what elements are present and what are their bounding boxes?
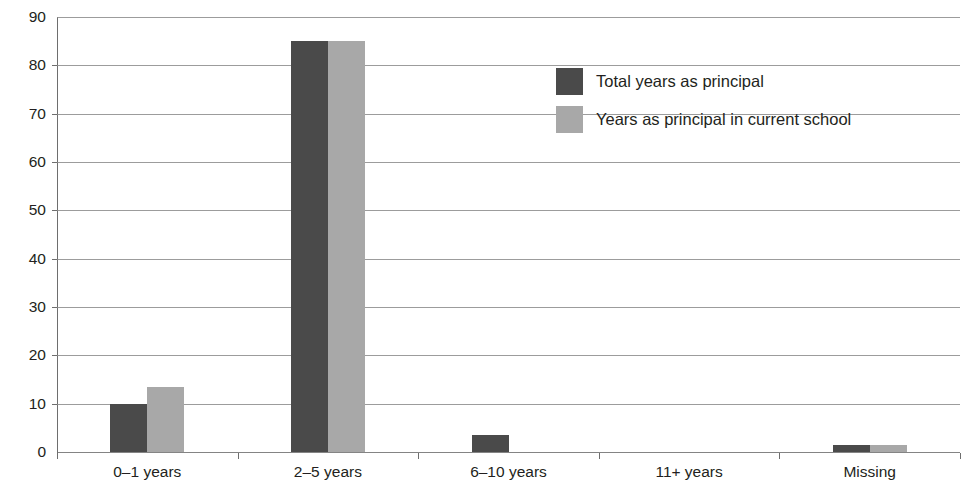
bar <box>833 445 870 452</box>
y-axis-tick-label: 10 <box>0 396 46 412</box>
bar <box>870 445 907 452</box>
x-axis-category-label: 11+ years <box>599 464 780 480</box>
legend-label: Total years as principal <box>596 73 764 90</box>
y-axis-tick-label: 40 <box>0 251 46 267</box>
x-axis-tick <box>57 453 58 459</box>
y-axis-tick-label: 30 <box>0 299 46 315</box>
x-axis-tick <box>599 453 600 459</box>
y-axis-tick-label: 20 <box>0 347 46 363</box>
bar <box>291 41 328 452</box>
bar <box>147 387 184 452</box>
y-axis-tick-label: 0 <box>0 444 46 460</box>
y-axis-tick-label: 60 <box>0 154 46 170</box>
legend: Total years as principal Years as princi… <box>556 62 886 138</box>
legend-swatch-total-years <box>556 68 583 95</box>
y-axis-tick-label: 70 <box>0 106 46 122</box>
bar <box>328 41 365 452</box>
y-axis-tick-label: 80 <box>0 57 46 73</box>
legend-label: Years as principal in current school <box>596 111 851 128</box>
x-axis-category-label: 2–5 years <box>238 464 419 480</box>
x-axis-category-label: Missing <box>779 464 960 480</box>
x-axis-tick <box>418 453 419 459</box>
x-axis-tick <box>960 453 961 459</box>
bar-chart: 0102030405060708090 0–1 years2–5 years6–… <box>0 0 966 495</box>
y-axis-tick-label: 50 <box>0 202 46 218</box>
legend-item: Total years as principal <box>556 62 886 100</box>
x-axis-tick <box>779 453 780 459</box>
legend-swatch-current-school <box>556 106 583 133</box>
x-axis-category-label: 6–10 years <box>418 464 599 480</box>
axis-baseline <box>57 452 960 453</box>
x-axis-tick <box>238 453 239 459</box>
bar <box>110 404 147 452</box>
x-axis-category-label: 0–1 years <box>57 464 238 480</box>
bar <box>472 435 509 452</box>
y-axis-tick-label: 90 <box>0 9 46 25</box>
legend-item: Years as principal in current school <box>556 100 886 138</box>
